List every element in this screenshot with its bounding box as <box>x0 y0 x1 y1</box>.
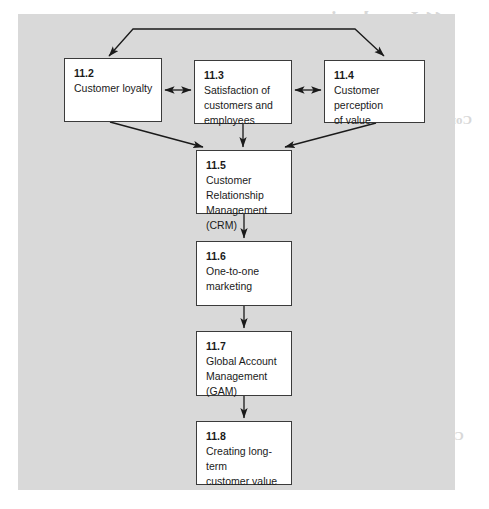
node-11-4-label: Customer perception of value <box>334 83 416 128</box>
node-11-7[interactable]: 11.7 Global Account Management (GAM) <box>196 331 292 396</box>
node-11-5[interactable]: 11.5 Customer Relationship Management (C… <box>196 150 292 214</box>
node-11-6[interactable]: 11.6 One-to-one marketing <box>196 241 292 306</box>
node-11-2-id: 11.2 <box>74 66 153 80</box>
node-11-7-label: Global Account Management (GAM) <box>206 354 283 399</box>
node-11-7-id: 11.7 <box>206 339 283 353</box>
node-11-6-label: One-to-one marketing <box>206 264 283 294</box>
node-11-3-id: 11.3 <box>204 68 283 82</box>
node-11-4[interactable]: 11.4 Customer perception of value <box>324 60 425 123</box>
connector-bracket-to-11-2 <box>109 29 243 56</box>
node-11-5-id: 11.5 <box>206 158 283 172</box>
node-11-2-label: Customer loyalty <box>74 81 153 96</box>
node-11-3[interactable]: 11.3 Satisfaction of customers and emplo… <box>194 60 292 124</box>
node-11-8[interactable]: 11.8 Creating long-term customer value <box>196 421 292 485</box>
connector-11-2-to-11-5 <box>110 122 203 147</box>
node-11-4-id: 11.4 <box>334 68 416 82</box>
node-11-8-label: Creating long-term customer value <box>206 444 283 489</box>
node-11-5-label: Customer Relationship Management (CRM) <box>206 173 283 233</box>
node-11-2[interactable]: 11.2 Customer loyalty <box>64 58 162 122</box>
node-11-3-label: Satisfaction of customers and employees <box>204 83 283 128</box>
node-11-6-id: 11.6 <box>206 249 283 263</box>
connector-bracket-to-11-4 <box>243 29 384 56</box>
node-11-8-id: 11.8 <box>206 429 283 443</box>
